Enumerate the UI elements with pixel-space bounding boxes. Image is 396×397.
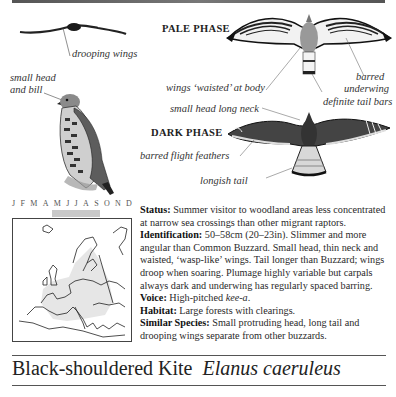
identification-label: Identification: [140, 229, 202, 240]
voice-paragraph: Voice: High-pitched kee-a. [140, 292, 390, 305]
month-oct: O [104, 199, 110, 208]
identification-paragraph: Identification: 50–58cm (20–23in). Slimm… [140, 229, 390, 292]
europe-map-outline [13, 219, 131, 341]
voice-text-prefix: High-pitched [167, 292, 226, 303]
voice-label: Voice: [140, 292, 167, 303]
scientific-name: Elanus caeruleus [203, 357, 341, 379]
label-drooping-wings: drooping wings [72, 48, 137, 59]
month-mar: M [30, 199, 37, 208]
month-sep: S [94, 199, 98, 208]
status-paragraph: Status: Summer visitor to woodland areas… [140, 204, 390, 229]
habitat-text: Large forests with clearings. [177, 305, 295, 316]
status-text: Summer visitor to woodland areas less co… [140, 204, 385, 228]
habitat-paragraph: Habitat: Large forests with clearings. [140, 305, 390, 318]
title-top-rule [12, 355, 386, 356]
month-apr: A [43, 199, 49, 208]
dark-phase-illustration [226, 104, 392, 180]
month-calendar: J F M A M J J A S O N D [12, 199, 132, 208]
month-jun: J [66, 199, 69, 208]
perched-bird-illustration [40, 90, 130, 195]
label-small-head-line2: and bill [10, 84, 42, 95]
status-label: Status: [140, 204, 171, 215]
label-barred: barred [356, 71, 384, 82]
month-jan: J [12, 199, 15, 208]
month-nov: N [115, 199, 121, 208]
title-bottom-rule [12, 385, 386, 386]
month-feb: F [20, 199, 24, 208]
habitat-label: Habitat: [140, 305, 177, 316]
dark-phase-heading: DARK PHASE [151, 127, 223, 138]
voice-call: kee-a [226, 292, 248, 303]
label-underwing: underwing [344, 83, 389, 94]
top-rule [12, 0, 385, 3]
range-map [12, 218, 132, 342]
month-dec: D [126, 199, 132, 208]
presence-bar [52, 210, 100, 217]
month-may: M [54, 199, 61, 208]
label-wings-waisted: wings ‘waisted’ at body [166, 82, 265, 93]
label-longish-tail: longish tail [200, 175, 248, 186]
species-title: Black-shouldered KiteElanus caeruleus [12, 357, 341, 380]
pale-phase-illustration [226, 8, 392, 76]
month-jul: J [75, 199, 78, 208]
label-barred-flight-feathers: barred flight feathers [140, 150, 229, 161]
similar-species-paragraph: Similar Species: Small protruding head, … [140, 317, 390, 342]
voice-text-suffix: . [248, 292, 251, 303]
label-small-head-line1: small head [10, 72, 56, 83]
month-aug: A [83, 199, 89, 208]
common-name: Black-shouldered Kite [12, 357, 193, 379]
species-description: Status: Summer visitor to woodland areas… [140, 204, 390, 343]
similar-species-label: Similar Species: [140, 317, 210, 328]
pale-phase-heading: PALE PHASE [162, 23, 230, 34]
